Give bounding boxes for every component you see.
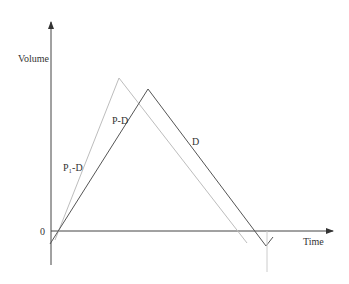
- x-axis-label: Time: [303, 236, 324, 247]
- d-label: D: [192, 136, 199, 147]
- y-axis-label: Volume: [18, 53, 49, 64]
- light-series-line: [55, 78, 247, 243]
- p-d-label: P-D: [112, 115, 128, 126]
- volume-time-diagram: Volume Time 0 P₁-D P-D D: [0, 0, 349, 284]
- p1-d-label: P₁-D: [63, 162, 83, 173]
- origin-label: 0: [40, 226, 45, 237]
